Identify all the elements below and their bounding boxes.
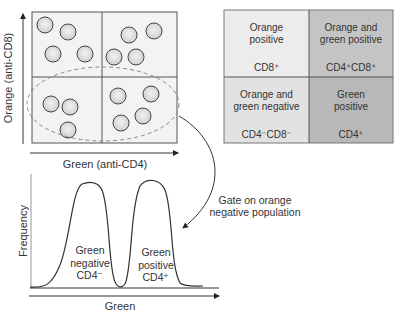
scatter-plot: [23, 12, 179, 153]
cell-double-negative: Orange and green negative CD4⁻CD8⁻: [224, 77, 309, 143]
histogram: [29, 174, 219, 296]
y-axis-label: Orange (anti-CD8): [2, 28, 14, 128]
peak-label-negative: Green negative CD4⁻: [62, 244, 118, 282]
histogram-y-label: Frequency: [17, 201, 29, 261]
cell-double-positive: Orange and green positive CD4⁺CD8⁺: [309, 10, 393, 77]
cell-orange-positive: Orange positive CD8⁺: [224, 10, 309, 77]
gate-annotation: Gate on orange negative population: [205, 194, 305, 218]
histogram-x-label: Green: [100, 300, 140, 312]
cell-green-positive: Green positive CD4⁺: [309, 77, 393, 143]
x-axis-label: Green (anti-CD4): [50, 158, 160, 170]
peak-label-positive: Green positive CD4⁺: [128, 246, 184, 284]
